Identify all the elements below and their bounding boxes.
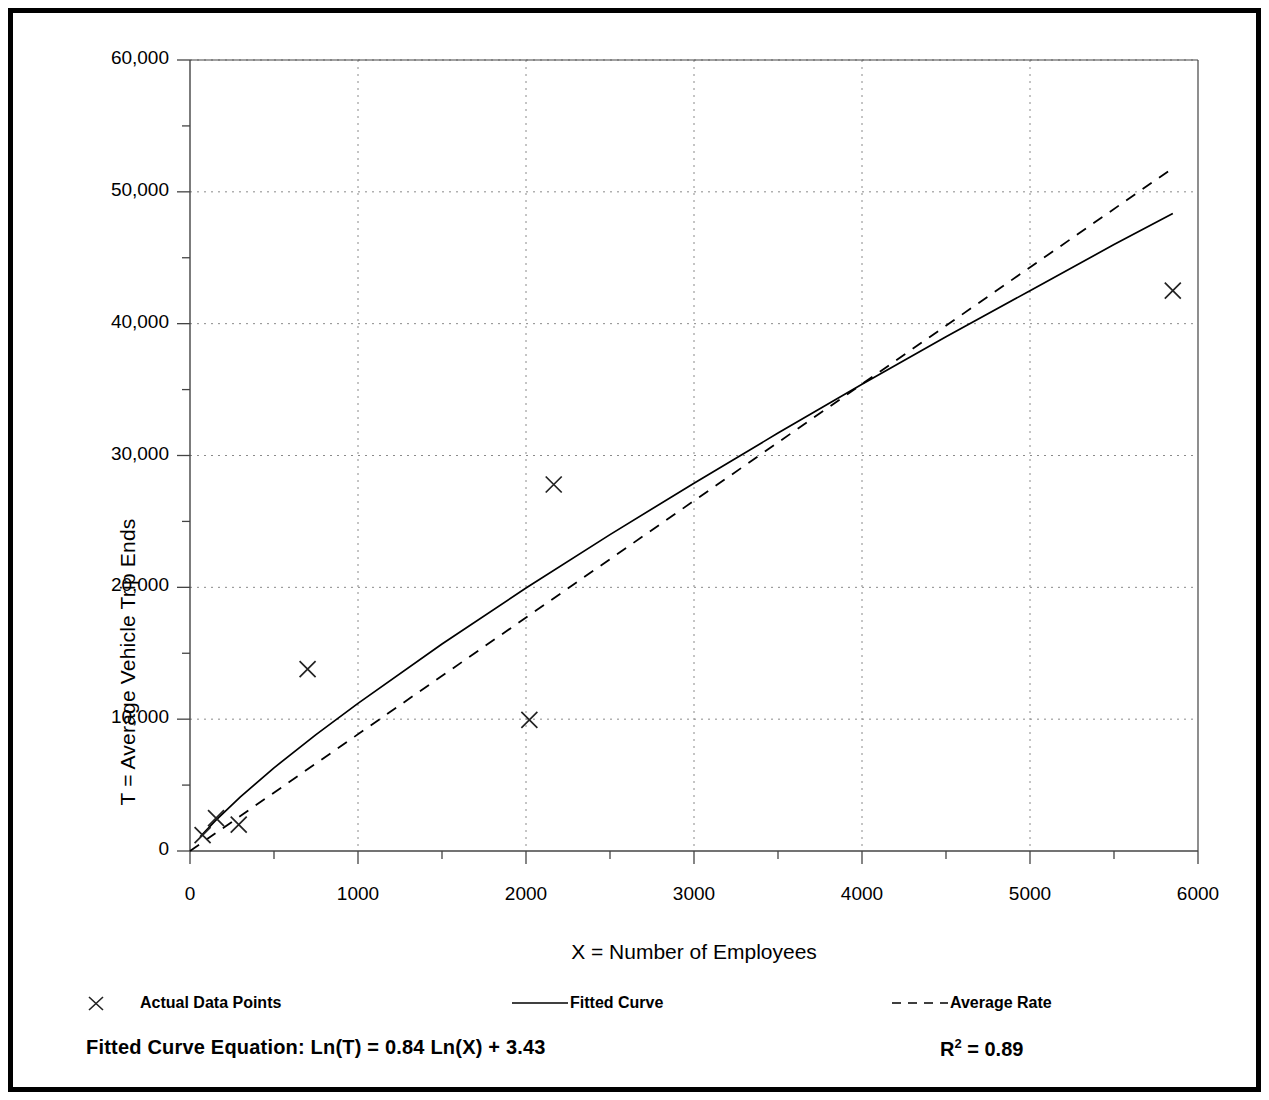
x-axis-tick-label: 2000 — [466, 883, 586, 905]
r-squared-equals: = 0.89 — [967, 1038, 1023, 1060]
y-axis-tick-label: 40,000 — [59, 311, 169, 333]
legend-label-actual-data-points: Actual Data Points — [140, 994, 281, 1012]
x-axis-tick-label: 3000 — [634, 883, 754, 905]
solid-line-icon — [510, 993, 556, 1013]
data-point-marker — [300, 661, 316, 677]
r-squared-exponent: 2 — [954, 1036, 961, 1051]
y-axis-label: T = Average Vehicle Trip Ends — [116, 452, 140, 872]
legend-label-fitted-curve: Fitted Curve — [570, 994, 663, 1012]
series-actual-data-points — [195, 283, 1181, 843]
x-axis-tick-label: 5000 — [970, 883, 1090, 905]
legend-item-average-rate: Average Rate — [890, 988, 1052, 1018]
y-axis-tick-label: 0 — [59, 838, 169, 860]
x-axis-tick-label: 1000 — [298, 883, 418, 905]
chart-canvas — [0, 0, 1269, 1100]
data-point-marker — [231, 817, 247, 833]
y-axis-tick-label: 20,000 — [59, 574, 169, 596]
x-axis-tick-label: 0 — [130, 883, 250, 905]
legend-item-fitted-curve: Fitted Curve — [510, 988, 663, 1018]
r-squared-value: R2 = 0.89 — [940, 1036, 1023, 1061]
y-axis-tick-label: 50,000 — [59, 179, 169, 201]
x-axis-tick-label: 6000 — [1138, 883, 1258, 905]
fitted-curve-equation: Fitted Curve Equation: Ln(T) = 0.84 Ln(X… — [86, 1036, 546, 1059]
y-axis-tick-label: 60,000 — [59, 47, 169, 69]
data-point-marker — [195, 827, 211, 843]
x-axis-tick-label: 4000 — [802, 883, 922, 905]
data-point-marker — [521, 712, 537, 728]
data-point-marker — [1165, 283, 1181, 299]
data-point-marker — [208, 810, 224, 826]
x-axis-label: X = Number of Employees — [190, 940, 1198, 964]
chart-legend: Actual Data Points Fitted Curve Average … — [60, 988, 1220, 1018]
y-axis-tick-label: 10,000 — [59, 706, 169, 728]
r-squared-base: R — [940, 1038, 954, 1060]
footer-row: Fitted Curve Equation: Ln(T) = 0.84 Ln(X… — [60, 1036, 1220, 1070]
series-average-rate — [190, 168, 1173, 851]
x-marker-icon — [80, 993, 126, 1013]
legend-item-actual-data-points: Actual Data Points — [80, 988, 281, 1018]
data-point-marker — [546, 477, 562, 493]
y-axis-tick-label: 30,000 — [59, 443, 169, 465]
plot-wrapper — [0, 0, 1269, 1100]
legend-label-average-rate: Average Rate — [950, 994, 1052, 1012]
figure-root: T = Average Vehicle Trip Ends X = Number… — [0, 0, 1269, 1100]
dashed-line-icon — [890, 993, 936, 1013]
